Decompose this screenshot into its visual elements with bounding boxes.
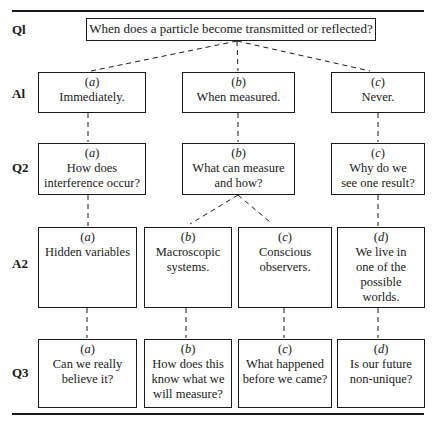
a2-box-b: (b) Macroscopic systems. bbox=[144, 227, 232, 308]
q3-box-d: (d) Is our future non-unique? bbox=[337, 339, 425, 408]
box-text-line: worlds. bbox=[338, 290, 424, 305]
row-label-a1: Al bbox=[12, 86, 25, 102]
box-text-line: possible bbox=[338, 275, 424, 290]
box-text: Never. bbox=[332, 90, 424, 105]
tag: d bbox=[378, 342, 384, 356]
row-label-q2: Q2 bbox=[12, 160, 29, 176]
box-text-line: interference occur? bbox=[39, 176, 145, 191]
box-text-line: non-unique? bbox=[338, 372, 424, 387]
a1-box-c: (c) Never. bbox=[331, 72, 425, 113]
q3-box-a: (a) Can we really believe it? bbox=[38, 339, 137, 408]
box-text-line: We live in bbox=[338, 245, 424, 260]
box-text-line: see one result? bbox=[332, 176, 424, 191]
tag: b bbox=[185, 342, 191, 356]
box-text-line: What can measure bbox=[183, 161, 294, 176]
box-text-line: Hidden variables bbox=[39, 245, 136, 260]
box-text-line: How does this bbox=[145, 357, 231, 372]
q3-box-c: (c) What happened before we came? bbox=[238, 339, 332, 408]
tag: a bbox=[84, 230, 90, 244]
row-label-q1: Ql bbox=[12, 22, 26, 38]
q1-box: When does a particle become transmitted … bbox=[86, 18, 376, 41]
a2-box-d: (d) We live in one of the possible world… bbox=[337, 227, 425, 308]
tag: b bbox=[235, 75, 241, 89]
box-text-line: What happened bbox=[239, 357, 331, 372]
a1-box-b: (b) When measured. bbox=[182, 72, 295, 113]
box-text-line: one of the bbox=[338, 260, 424, 275]
tag: c bbox=[282, 230, 288, 244]
box-text-line: will measure? bbox=[145, 387, 231, 402]
box-text-line: Can we really bbox=[39, 357, 136, 372]
tag: c bbox=[282, 342, 288, 356]
box-text-line: observers. bbox=[239, 260, 331, 275]
q2-box-a: (a) How does interference occur? bbox=[38, 143, 146, 195]
a1-box-a: (a) Immediately. bbox=[38, 72, 146, 113]
box-text-line: before we came? bbox=[239, 372, 331, 387]
tag: a bbox=[89, 75, 95, 89]
box-text-line: How does bbox=[39, 161, 145, 176]
box-text-line: Is our future bbox=[338, 357, 424, 372]
box-text-line: Conscious bbox=[239, 245, 331, 260]
a2-box-a: (a) Hidden variables bbox=[38, 227, 137, 308]
tag: d bbox=[378, 230, 384, 244]
tag: c bbox=[375, 146, 381, 160]
tag: a bbox=[84, 342, 90, 356]
q2-box-c: (c) Why do we see one result? bbox=[331, 143, 425, 195]
a2-box-c: (c) Conscious observers. bbox=[238, 227, 332, 308]
box-text: Immediately. bbox=[39, 90, 145, 105]
box-text-line: Why do we bbox=[332, 161, 424, 176]
row-label-a2: A2 bbox=[12, 256, 28, 272]
q3-box-b: (b) How does this know what we will meas… bbox=[144, 339, 232, 408]
q1-text: When does a particle become transmitted … bbox=[89, 21, 372, 36]
box-text-line: Macroscopic bbox=[145, 245, 231, 260]
box-text: When measured. bbox=[183, 90, 294, 105]
box-text-line: systems. bbox=[145, 260, 231, 275]
tag: b bbox=[185, 230, 191, 244]
tag: b bbox=[235, 146, 241, 160]
box-text-line: believe it? bbox=[39, 372, 136, 387]
row-label-q3: Q3 bbox=[12, 365, 29, 381]
tag: c bbox=[375, 75, 381, 89]
box-text-line: and how? bbox=[183, 176, 294, 191]
tag: a bbox=[89, 146, 95, 160]
box-text-line: know what we bbox=[145, 372, 231, 387]
q2-box-b: (b) What can measure and how? bbox=[182, 143, 295, 195]
